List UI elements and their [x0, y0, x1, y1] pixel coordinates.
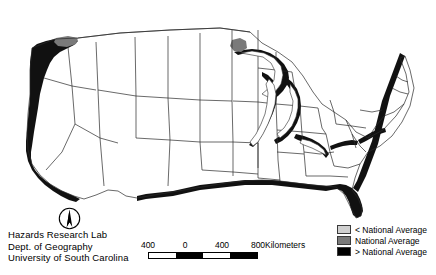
credit-line-university: University of South Carolina	[8, 252, 129, 264]
scale-bar-track	[148, 252, 258, 259]
legend-swatch-above-average	[337, 247, 351, 256]
credits-block: Hazards Research Lab Dept. of Geography …	[8, 229, 129, 264]
scale-segment-3	[203, 253, 230, 258]
scale-tick-label-2: 400	[215, 240, 229, 250]
legend-item-above-average: > National Average	[337, 246, 433, 257]
scale-segment-4	[230, 253, 257, 258]
legend-swatch-below-average	[337, 225, 351, 234]
hazards-map-figure: Hazards Research Lab Dept. of Geography …	[0, 0, 436, 275]
scale-segment-1	[149, 253, 176, 258]
north-arrow-icon	[58, 207, 81, 230]
scale-tick-label-1: 0	[183, 240, 188, 250]
map-legend: < National Average National Average > Na…	[337, 224, 433, 257]
legend-swatch-average	[337, 236, 351, 245]
legend-item-below-average: < National Average	[337, 224, 433, 235]
map-canvas	[0, 0, 436, 220]
legend-label-above-average: > National Average	[355, 247, 427, 257]
average-counties-layer	[54, 36, 247, 52]
above-average-counties-layer	[26, 37, 405, 218]
scale-bar: 400 0 400 800 Kilometers	[148, 240, 328, 262]
scale-segment-2	[176, 253, 203, 258]
credit-line-lab: Hazards Research Lab	[8, 229, 129, 241]
scale-bar-labels: 400 0 400 800 Kilometers	[148, 240, 328, 252]
legend-item-average: National Average	[337, 235, 433, 246]
scale-tick-label-0: 400	[141, 240, 155, 250]
scale-units-label: Kilometers	[265, 240, 305, 250]
scale-tick-label-3: 800	[251, 240, 265, 250]
credit-line-department: Dept. of Geography	[8, 241, 129, 253]
legend-label-average: National Average	[355, 236, 420, 246]
legend-label-below-average: < National Average	[355, 225, 427, 235]
